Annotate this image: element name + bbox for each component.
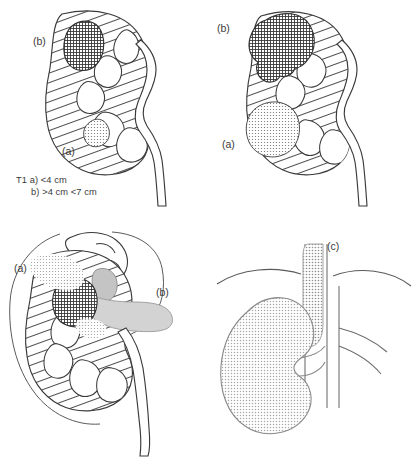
t3-illustration: (a) (b) xyxy=(0,228,210,470)
panel-t3c: (c) c) Tumour in IVC above diaphragm xyxy=(209,228,419,470)
t2-illustration: (b) (a) xyxy=(209,0,419,235)
label-b-t3: (b) xyxy=(156,286,169,298)
aorta-t3c xyxy=(339,286,387,408)
t3c-illustration: (c) xyxy=(209,228,419,470)
tumour-b-t1 xyxy=(64,21,104,70)
panel-t2: (b) (a) T2 a) >7 cm <10 cm b) >10 cm xyxy=(209,0,419,235)
label-b-t1: (b) xyxy=(33,35,46,47)
label-b-t2: (b) xyxy=(217,22,230,34)
staging-figure-sheet: (b) (a) T1 a) <4 cm b) >4 cm <7 cm xyxy=(0,0,419,470)
caption-t1: T1 a) <4 cm b) >4 cm <7 cm xyxy=(16,174,97,198)
t1-illustration: (b) (a) xyxy=(0,0,210,235)
kidney-stippled-t3c xyxy=(221,298,314,434)
panel-t3: (a) (b) T3 a) Tumour in renal vein and b… xyxy=(0,228,210,470)
label-a-t2: (a) xyxy=(222,138,235,150)
panel-t1: (b) (a) T1 a) <4 cm b) >4 cm <7 cm xyxy=(0,0,210,235)
label-a-t3: (a) xyxy=(14,262,27,274)
label-a-t1: (a) xyxy=(62,145,75,157)
label-c-t3c: (c) xyxy=(327,240,339,252)
caption-t1-line2: b) >4 cm <7 cm xyxy=(16,186,97,198)
tumour-a-t2 xyxy=(246,102,299,157)
caption-t1-line1: T1 a) <4 cm xyxy=(16,175,67,185)
